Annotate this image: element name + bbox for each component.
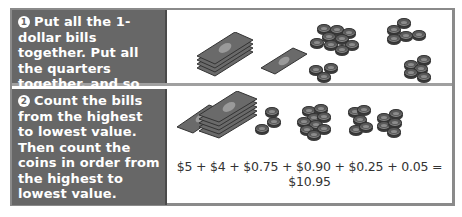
step-row-1: 1Put all the 1-dollar bills together. Pu… bbox=[12, 10, 452, 86]
step-2-illustration: $5 + $4 + $0.75 + $0.90 + $0.25 + 0.05 =… bbox=[167, 89, 452, 205]
step-2-panel: 2Count the bills from the highest to low… bbox=[12, 89, 167, 205]
sum-equation: $5 + $4 + $0.75 + $0.90 + $0.25 + 0.05 =… bbox=[167, 159, 452, 189]
stack-of-dollar-bills-icon bbox=[197, 91, 259, 139]
step-2-text: Count the bills from the highest to lowe… bbox=[18, 93, 160, 201]
step-number-badge: 1 bbox=[18, 16, 30, 28]
money-counting-steps-table: 1Put all the 1-dollar bills together. Pu… bbox=[10, 8, 455, 206]
step-number-badge: 2 bbox=[18, 95, 30, 107]
stack-of-dollar-bills-icon bbox=[195, 32, 257, 77]
step-row-2: 2Count the bills from the highest to low… bbox=[12, 89, 452, 205]
dollar-bill-icon bbox=[259, 46, 309, 76]
step-1-illustration bbox=[167, 10, 452, 83]
step-1-panel: 1Put all the 1-dollar bills together. Pu… bbox=[12, 10, 167, 83]
